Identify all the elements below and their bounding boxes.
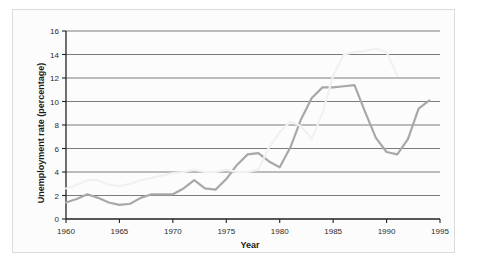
y-tick-label: 8	[55, 121, 60, 130]
x-tick-label: 1990	[378, 227, 396, 236]
x-tick-label: 1965	[111, 227, 129, 236]
line-chart: 0246810121416 19601965197019751980198519…	[0, 0, 489, 273]
y-tick-label: 12	[50, 74, 59, 83]
y-tick-label: 2	[55, 192, 60, 201]
x-tick-label: 1995	[431, 227, 449, 236]
y-tick-label: 0	[55, 215, 60, 224]
x-tick-group: 19601965197019751980198519901995	[57, 219, 449, 236]
x-tick-label: 1970	[164, 227, 182, 236]
series-line-series-light	[66, 49, 397, 189]
x-axis-title: Year	[240, 240, 260, 250]
y-tick-label: 4	[55, 168, 60, 177]
x-tick-label: 1985	[324, 227, 342, 236]
y-tick-label: 16	[50, 27, 59, 36]
x-tick-label: 1960	[57, 227, 75, 236]
y-tick-label: 6	[55, 145, 60, 154]
x-tick-label: 1980	[271, 227, 289, 236]
y-tick-label: 10	[50, 98, 59, 107]
chart-figure: 0246810121416 19601965197019751980198519…	[0, 0, 489, 273]
y-axis-title: Unemployment rate (percentage)	[36, 63, 46, 204]
x-tick-label: 1975	[217, 227, 235, 236]
y-tick-label: 14	[50, 51, 59, 60]
series-group	[66, 49, 429, 205]
y-tick-group: 0246810121416	[50, 27, 66, 224]
